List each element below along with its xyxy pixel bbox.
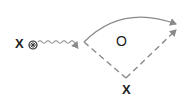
wavy-propagator xyxy=(38,41,77,44)
bottom-label: X xyxy=(122,83,131,96)
circled-cross-icon xyxy=(29,41,37,49)
source-label: X xyxy=(15,37,24,50)
solid-curve-edge xyxy=(84,17,176,42)
dashed-edge-right xyxy=(126,30,176,78)
diagram-canvas xyxy=(0,0,188,104)
loop-label: O xyxy=(116,34,127,48)
